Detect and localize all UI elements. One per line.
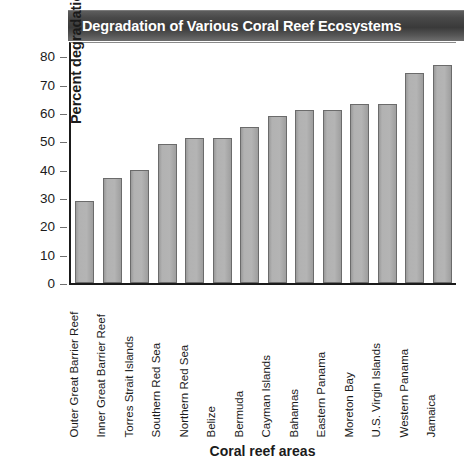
x-tick-label-slot: Jamaica xyxy=(429,287,457,437)
bar xyxy=(350,104,369,283)
x-tick-label: U.S. Virgin Islands xyxy=(371,343,383,437)
x-tick-label: Torres Strait Islands xyxy=(123,335,135,437)
x-tick-label: Southern Red Sea xyxy=(151,342,163,437)
y-tick-mark xyxy=(60,114,67,115)
bar xyxy=(433,65,452,283)
y-tick-mark xyxy=(60,171,67,172)
y-tick-mark xyxy=(60,142,67,143)
x-tick-label: Outer Great Barrier Reef xyxy=(68,311,80,437)
y-tick-label: 70 xyxy=(22,78,55,93)
y-tick-mark xyxy=(60,57,67,58)
x-tick-label: Bermuda xyxy=(233,390,245,437)
y-tick-label: 80 xyxy=(22,49,55,64)
x-tick-label: Belize xyxy=(206,406,218,437)
bars-container xyxy=(71,42,456,283)
y-axis-ticks: 01020304050607080 xyxy=(22,42,70,285)
bar xyxy=(158,144,177,283)
x-tick-label: Inner Great Barrier Reef xyxy=(96,314,108,437)
x-tick-label: Eastern Panama xyxy=(316,351,328,437)
bar xyxy=(185,138,204,283)
x-tick-label: Bahamas xyxy=(288,388,300,437)
x-axis-tick-labels: Outer Great Barrier ReefInner Great Barr… xyxy=(71,287,456,439)
bar xyxy=(130,170,149,283)
y-tick-mark xyxy=(60,284,67,285)
x-tick-label: Cayman Islands xyxy=(261,355,273,437)
y-tick-label: 10 xyxy=(22,248,55,263)
bar xyxy=(323,110,342,283)
x-tick-label: Western Panama xyxy=(398,348,410,437)
bar xyxy=(378,104,397,283)
bar xyxy=(405,73,424,283)
y-tick-mark xyxy=(60,227,67,228)
bar xyxy=(295,110,314,283)
y-tick-mark xyxy=(60,86,67,87)
bar xyxy=(103,178,122,283)
y-tick-label: 50 xyxy=(22,134,55,149)
y-tick-mark xyxy=(60,256,67,257)
y-tick-label: 20 xyxy=(22,219,55,234)
y-tick-mark xyxy=(60,199,67,200)
x-tick-label: Jamaica xyxy=(426,394,438,437)
x-tick-label: Moreton Bay xyxy=(343,372,355,437)
y-tick-label: 60 xyxy=(22,106,55,121)
x-axis-title: Coral reef areas xyxy=(69,443,456,459)
x-tick-label: Northern Red Sea xyxy=(178,344,190,437)
y-tick-label: 30 xyxy=(22,191,55,206)
chart-title: Degradation of Various Coral Reef Ecosys… xyxy=(82,18,402,34)
bar xyxy=(213,138,232,283)
y-tick-label: 0 xyxy=(22,276,55,291)
bar xyxy=(240,127,259,283)
chart-title-banner: Degradation of Various Coral Reef Ecosys… xyxy=(68,10,464,41)
bar xyxy=(75,201,94,283)
bar xyxy=(268,116,287,283)
y-tick-label: 40 xyxy=(22,163,55,178)
